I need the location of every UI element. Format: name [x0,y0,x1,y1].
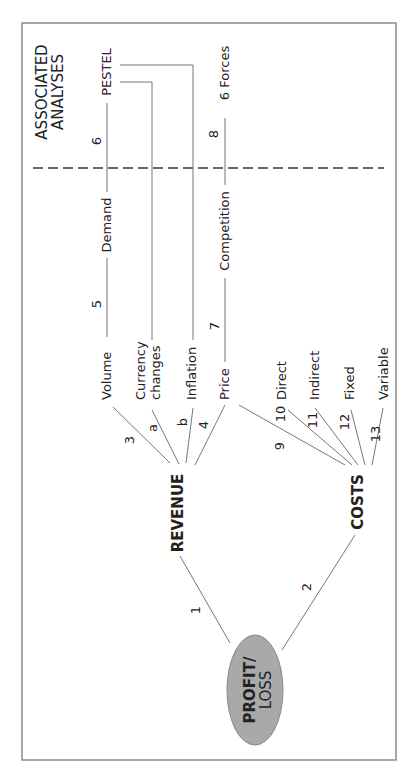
link-2-costs [282,535,355,650]
link-number-10: 10 [273,406,288,423]
link-1-revenue [180,556,230,643]
link-12-fixed [351,410,365,465]
direct-label: Direct [274,361,289,400]
competition-label: Competition [217,191,232,271]
six-forces-label: 6 Forces [217,46,232,101]
link-number-2: 2 [299,583,314,591]
link-b-inflation [186,408,193,463]
fixed-label: Fixed [342,366,357,400]
profit-loss-diagram: PROFIT/ LOSS REVENUE COSTS Volume Curren… [0,0,406,771]
volume-label: Volume [99,352,114,400]
link-number-b: b [175,418,190,426]
currency-label-line1: Currency [133,341,148,400]
link-currency-pestel [120,82,152,340]
link-number-5: 5 [89,300,104,308]
link-number-13: 13 [368,426,383,443]
link-inflation-pestel [120,65,193,340]
link-number-12: 12 [337,414,352,431]
associated-analyses-header-line2: ANALYSES [49,54,67,130]
indirect-label: Indirect [307,351,322,400]
link-number-1: 1 [188,606,203,614]
costs-label: COSTS [349,474,367,530]
link-4-price [195,405,225,465]
link-number-11: 11 [305,412,320,429]
inflation-label: Inflation [184,347,199,400]
link-number-8: 8 [206,130,221,138]
link-number-3: 3 [122,436,137,444]
price-label: Price [217,368,232,400]
profit-loss-label-line2: LOSS [257,671,275,710]
variable-label: Variable [376,347,391,400]
link-number-a: a [145,424,160,432]
pestel-label: PESTEL [99,47,114,95]
demand-label: Demand [99,197,114,252]
link-number-9: 9 [272,442,287,450]
link-number-7: 7 [207,322,222,330]
revenue-label: REVENUE [169,474,187,553]
link-number-6: 6 [89,137,104,145]
link-3-volume [113,407,170,463]
link-number-4: 4 [196,421,211,429]
currency-label-line2: changes [148,345,163,400]
